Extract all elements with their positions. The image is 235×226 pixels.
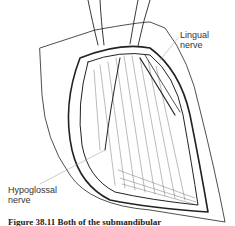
figure-page: Lingual nerve Hypoglossal nerve Figure 3…	[0, 0, 235, 226]
label-line: nerve	[180, 40, 209, 50]
label-line: Hypoglossal	[8, 185, 57, 195]
hypoglossal-nerve-label: Hypoglossal nerve	[8, 185, 57, 205]
figure-caption: Figure 38.11 Both of the submandibular	[8, 217, 161, 226]
label-line: nerve	[8, 195, 57, 205]
lingual-nerve-label: Lingual nerve	[180, 30, 209, 50]
label-line: Lingual	[180, 30, 209, 40]
